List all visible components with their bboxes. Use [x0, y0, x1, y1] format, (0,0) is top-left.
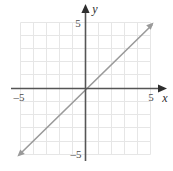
coordinate-plane-figure: –5 5 5 –5 x y [0, 0, 173, 171]
x-tick-label-positive-five: 5 [148, 91, 154, 103]
graph-canvas: –5 5 5 –5 x y [0, 0, 173, 171]
y-tick-label-positive-five: 5 [75, 17, 81, 29]
y-axis-arrowhead [81, 4, 89, 13]
axes [11, 4, 167, 161]
y-tick-label-negative-five: –5 [70, 148, 83, 160]
x-tick-label-negative-five: –5 [13, 91, 26, 103]
y-axis-label: y [91, 2, 98, 16]
x-axis-label: x [161, 91, 168, 105]
